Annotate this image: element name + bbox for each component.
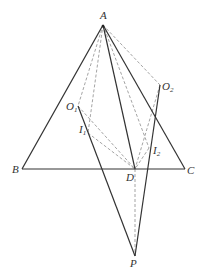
segment-A-B xyxy=(22,25,103,169)
segment-O1-D xyxy=(78,106,135,169)
label-D: D xyxy=(125,171,134,183)
label-B: B xyxy=(12,163,19,175)
label-I2: I2 xyxy=(152,144,161,158)
label-P: P xyxy=(129,257,137,269)
label-O2: O2 xyxy=(162,80,174,94)
label-A: A xyxy=(99,9,107,21)
label-C: C xyxy=(187,164,195,176)
dashed-lines xyxy=(78,25,160,256)
segment-I2-D xyxy=(135,148,149,169)
solid-lines xyxy=(22,25,185,256)
vertex-A-dot xyxy=(102,25,105,28)
segment-O2-P xyxy=(135,85,160,256)
segment-A-O1 xyxy=(78,25,103,106)
geometry-diagram: A B C D P O1 O2 I1 I2 xyxy=(0,0,205,278)
label-O1: O1 xyxy=(66,100,77,114)
segment-A-I1 xyxy=(88,25,103,133)
